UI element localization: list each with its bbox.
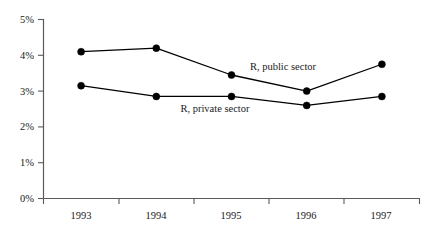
- y-tick-label-1: 1%: [20, 157, 34, 168]
- x-axis-ticks: [44, 199, 420, 205]
- data-point: [153, 93, 160, 100]
- data-point: [228, 71, 235, 78]
- data-point: [78, 82, 85, 89]
- x-tick-label-1995: 1995: [221, 210, 242, 221]
- series-line-public-sector: [81, 48, 382, 91]
- x-tick-label-1996: 1996: [296, 210, 317, 221]
- annotation-private-sector: R, private sector: [180, 103, 250, 114]
- y-axis-tick-labels: 0% 1% 2% 3% 4% 5%: [20, 14, 34, 204]
- x-axis-tick-labels: 1993 1994 1995 1996 1997: [71, 210, 392, 221]
- y-tick-label-3: 3%: [20, 86, 34, 97]
- x-tick-label-1993: 1993: [71, 210, 92, 221]
- data-point: [153, 45, 160, 52]
- x-tick-label-1994: 1994: [146, 210, 168, 221]
- data-point: [228, 93, 235, 100]
- data-point: [78, 48, 85, 55]
- data-point: [303, 102, 310, 109]
- y-tick-label-5: 5%: [20, 14, 34, 25]
- series-markers-public-sector: [78, 45, 386, 95]
- data-point: [378, 61, 385, 68]
- y-tick-label-0: 0%: [20, 193, 34, 204]
- data-point: [303, 88, 310, 95]
- series-annotations: R, public sector R, private sector: [180, 61, 316, 114]
- y-axis-ticks: [38, 20, 44, 199]
- data-point: [378, 93, 385, 100]
- y-tick-label-2: 2%: [20, 121, 34, 132]
- y-tick-label-4: 4%: [20, 50, 34, 61]
- x-tick-label-1997: 1997: [371, 210, 392, 221]
- chart-canvas: 0% 1% 2% 3% 4% 5% 1993 1994 1995 1996 19…: [0, 0, 426, 236]
- annotation-public-sector: R, public sector: [250, 61, 317, 72]
- line-chart: 0% 1% 2% 3% 4% 5% 1993 1994 1995 1996 19…: [0, 0, 426, 236]
